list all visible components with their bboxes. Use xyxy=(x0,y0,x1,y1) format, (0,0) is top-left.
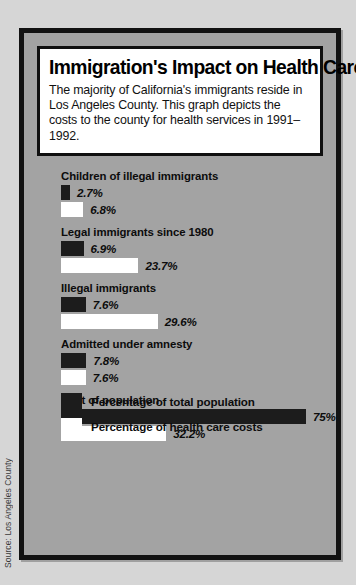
poster-panel: Immigration's Impact on Health Care The … xyxy=(24,33,336,555)
bar-total-population xyxy=(61,353,86,368)
legend-swatch-cost xyxy=(61,418,82,434)
chart-legend: Percentage of total populationPercentage… xyxy=(24,393,263,443)
bar-group: Illegal immigrants7.6%29.6% xyxy=(24,282,336,329)
bar-value-label: 2.7% xyxy=(77,186,103,199)
bar-row: 2.7% xyxy=(61,185,336,200)
poster-page: Source: Los Angeles County Immigration's… xyxy=(0,0,356,585)
bar-row: 29.6% xyxy=(61,314,336,329)
poster-frame: Immigration's Impact on Health Care The … xyxy=(19,28,341,560)
bar-row: 23.7% xyxy=(61,258,336,273)
bar-value-label: 23.7% xyxy=(145,259,177,272)
bar-value-label: 7.6% xyxy=(93,371,119,384)
legend-label-population: Percentage of total population xyxy=(91,395,255,408)
subtitle-text: The majority of California's immigrants … xyxy=(49,83,311,144)
bar-row: 6.9% xyxy=(61,241,336,256)
bar-row: 7.8% xyxy=(61,353,336,368)
bar-total-population xyxy=(61,185,70,200)
bar-health-care-costs xyxy=(61,202,83,217)
bar-value-label: 7.8% xyxy=(93,354,119,367)
bar-row: 6.8% xyxy=(61,202,336,217)
bar-value-label: 6.8% xyxy=(90,203,116,216)
legend-swatch-population xyxy=(61,393,82,409)
bar-value-label: 29.6% xyxy=(165,315,197,328)
page-title: Immigration's Impact on Health Care xyxy=(49,56,295,78)
bar-group-label: Legal immigrants since 1980 xyxy=(61,226,336,239)
legend-item-cost: Percentage of health care costs xyxy=(61,418,263,434)
bar-health-care-costs xyxy=(61,258,138,273)
bar-health-care-costs xyxy=(61,314,158,329)
bar-total-population xyxy=(61,241,84,256)
bar-row: 7.6% xyxy=(61,297,336,312)
title-card: Immigration's Impact on Health Care The … xyxy=(37,46,323,156)
source-credit: Source: Los Angeles County xyxy=(1,438,15,568)
bar-group: Legal immigrants since 19806.9%23.7% xyxy=(24,226,336,273)
legend-label-cost: Percentage of health care costs xyxy=(91,420,263,433)
legend-item-population: Percentage of total population xyxy=(61,393,263,409)
bar-group: Admitted under amnesty7.8%7.6% xyxy=(24,338,336,385)
bar-group-label: Children of illegal immigrants xyxy=(61,170,336,183)
bar-value-label: 75% xyxy=(313,410,336,423)
bar-total-population xyxy=(61,297,86,312)
bar-group: Children of illegal immigrants2.7%6.8% xyxy=(24,170,336,217)
bar-value-label: 6.9% xyxy=(91,242,117,255)
bar-row: 7.6% xyxy=(61,370,336,385)
bar-group-label: Illegal immigrants xyxy=(61,282,336,295)
bar-value-label: 7.6% xyxy=(93,298,119,311)
bar-group-label: Admitted under amnesty xyxy=(61,338,336,351)
bar-health-care-costs xyxy=(61,370,86,385)
